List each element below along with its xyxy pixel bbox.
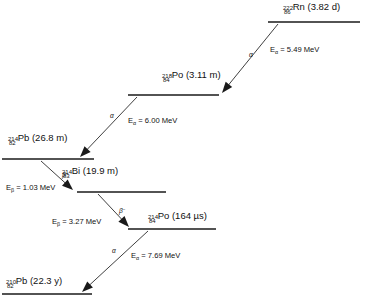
- transition-po218-to-pb214: αEα = 6.00 MeV: [80, 97, 178, 157]
- atomic-number-pb210: 82: [7, 283, 14, 289]
- atomic-number-pb214: 82: [9, 140, 16, 146]
- decay-mode-bi214-to-po214: β−: [118, 207, 126, 216]
- energy-label-pb214-to-bi214: Eβ = 1.03 MeV: [6, 183, 56, 193]
- energy-value-pb214-to-bi214: = 1.03 MeV: [14, 183, 56, 192]
- nuclide-label-pb210: 21082Pb (22.3 y): [6, 275, 62, 289]
- energy-level-po214: 21484Po (164 µs): [128, 210, 216, 229]
- arrow-shaft-rn222-to-po218: [228, 24, 278, 86]
- nuclide-label-pb214: 21482Pb (26.8 m): [8, 132, 67, 146]
- transition-pb214-to-bi214: β−Eβ = 1.03 MeV: [6, 161, 73, 193]
- element-symbol-rn222: Rn (3.82 d): [293, 1, 341, 12]
- decay-mode-sup-pb214-to-bi214: −: [66, 171, 69, 176]
- element-symbol-pb214: Pb (26.8 m): [18, 132, 68, 143]
- atomic-number-rn222: 86: [284, 9, 291, 15]
- energy-level-bi214: 21483Bi (19.9 m): [62, 165, 166, 192]
- atomic-number-po218: 84: [163, 77, 170, 83]
- element-symbol-bi214: Bi (19.9 m): [72, 165, 118, 176]
- decay-transitions-group: αEα = 5.49 MeVαEα = 6.00 MeVβ−Eβ = 1.03 …: [6, 24, 320, 292]
- energy-label-po218-to-pb214: Eα = 6.00 MeV: [128, 116, 178, 126]
- decay-mode-sup-bi214-to-po214: −: [123, 207, 126, 212]
- nuclide-label-rn222: 22286Rn (3.82 d): [283, 1, 340, 15]
- element-symbol-pb210: Pb (22.3 y): [16, 275, 62, 286]
- energy-label-rn222-to-po218: Eα = 5.49 MeV: [270, 45, 320, 55]
- transition-rn222-to-po218: αEα = 5.49 MeV: [222, 24, 320, 93]
- transition-bi214-to-po214: β−Eβ = 3.27 MeV: [52, 194, 129, 227]
- energy-level-pb214: 21482Pb (26.8 m): [2, 132, 94, 159]
- decay-mode-po214-to-pb210: α: [112, 247, 116, 254]
- decay-mode-po218-to-pb214: α: [110, 112, 114, 119]
- arrow-head-rn222-to-po218: [222, 82, 232, 93]
- nuclide-label-po218: 21884Po (3.11 m): [162, 69, 221, 83]
- energy-label-po214-to-pb210: Eα = 7.69 MeV: [131, 251, 181, 261]
- atomic-number-po214: 84: [149, 218, 156, 224]
- decay-chain-diagram: 22286Rn (3.82 d)21884Po (3.11 m)21482Pb …: [0, 0, 366, 306]
- energy-value-po218-to-pb214: = 6.00 MeV: [136, 116, 178, 125]
- energy-level-po218: 21884Po (3.11 m): [128, 69, 221, 95]
- energy-value-bi214-to-po214: = 3.27 MeV: [60, 217, 102, 226]
- element-symbol-po218: Po (3.11 m): [172, 69, 221, 80]
- energy-label-bi214-to-po214: Eβ = 3.27 MeV: [52, 217, 102, 227]
- nuclide-label-bi214: 21483Bi (19.9 m): [62, 165, 118, 179]
- transition-po214-to-pb210: αEα = 7.69 MeV: [82, 231, 181, 292]
- element-symbol-po214: Po (164 µs): [158, 210, 207, 221]
- decay-mode-rn222-to-po218: α: [249, 51, 253, 58]
- energy-value-po214-to-pb210: = 7.69 MeV: [139, 251, 181, 260]
- energy-value-rn222-to-po218: = 5.49 MeV: [278, 45, 320, 54]
- nuclide-label-po214: 21484Po (164 µs): [148, 210, 207, 224]
- energy-level-pb210: 21082Pb (22.3 y): [2, 275, 92, 294]
- energy-level-rn222: 22286Rn (3.82 d): [268, 1, 360, 22]
